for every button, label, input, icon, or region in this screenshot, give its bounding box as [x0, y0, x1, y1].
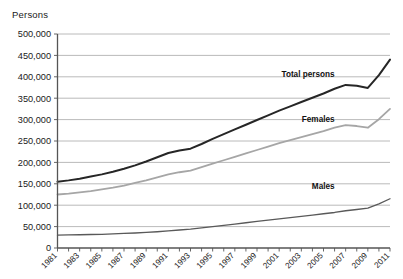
x-axis-tick-label: 1989 — [128, 251, 148, 271]
y-axis-tick-label: 50,000 — [23, 222, 51, 232]
y-axis-tick-label: 500,000 — [18, 29, 51, 39]
y-axis-tick-label: 200,000 — [18, 158, 51, 168]
x-axis-tick-label: 1991 — [151, 251, 171, 271]
y-axis-tick-label: 400,000 — [18, 72, 51, 82]
x-axis-tick-label: 2003 — [284, 251, 304, 271]
chart-plot: 050,000100,000150,000200,000250,000300,0… — [0, 0, 403, 279]
x-axis-tick-label: 2011 — [373, 251, 392, 270]
series-label: Males — [312, 182, 335, 191]
y-axis-tick-label: 250,000 — [18, 136, 51, 146]
y-axis-tick-label: 150,000 — [18, 179, 51, 189]
series-line — [58, 60, 391, 182]
y-axis-tick-label: 300,000 — [18, 115, 51, 125]
series-line — [58, 199, 391, 235]
gridlines-group — [58, 34, 391, 227]
x-axis-labels-group: 1981198319851987198919911993199519971999… — [40, 251, 392, 271]
series-line — [58, 109, 391, 195]
y-axis-labels-group: 050,000100,000150,000200,000250,000300,0… — [18, 29, 51, 253]
x-axis-tick-label: 2009 — [350, 251, 370, 271]
x-axis-tick-label: 1987 — [106, 251, 126, 271]
x-axis-tick-label: 2005 — [306, 251, 326, 271]
x-axis-tick-label: 2001 — [261, 251, 281, 271]
y-axis-tick-label: 350,000 — [18, 94, 51, 104]
x-axis-tick-label: 2007 — [328, 251, 348, 271]
data-series-group — [58, 60, 391, 235]
x-axis-tick-label: 1999 — [239, 251, 259, 271]
series-label: Total persons — [282, 70, 336, 79]
y-axis-tick-label: 100,000 — [18, 201, 51, 211]
x-axis-tick-label: 1993 — [173, 251, 193, 271]
x-axis-tick-label: 1983 — [62, 251, 82, 271]
chart-container: Persons 050,000100,000150,000200,000250,… — [0, 0, 403, 279]
x-axis-tick-label: 1995 — [195, 251, 215, 271]
series-label: Females — [302, 115, 335, 124]
x-axis-tick-label: 1985 — [84, 251, 104, 271]
y-axis-tick-label: 450,000 — [18, 51, 51, 61]
x-axis-tick-label: 1981 — [40, 251, 60, 271]
x-axis-tick-label: 1997 — [217, 251, 237, 271]
y-axis-tick-label: 0 — [46, 243, 51, 253]
